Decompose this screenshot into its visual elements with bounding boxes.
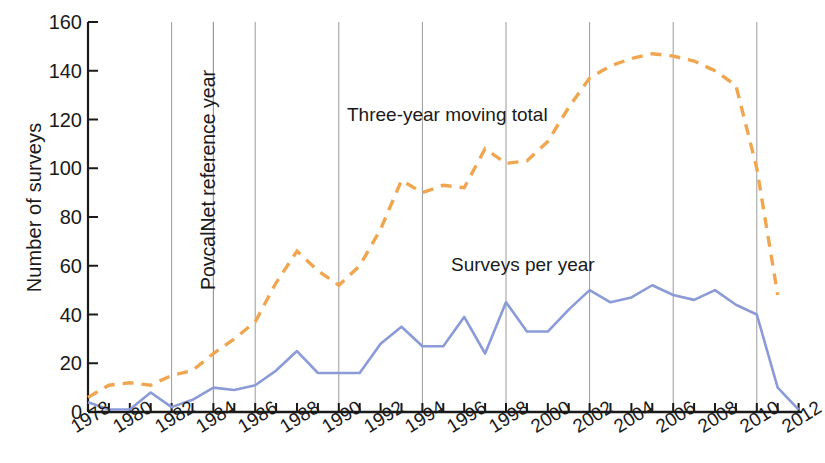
gridlines [172,22,757,412]
series-surveys-per-year [88,285,799,409]
povcalnet-reference-year-label: PovcalNet reference year [197,70,220,290]
surveys-per-year-label: Surveys per year [451,254,595,276]
three-year-moving-total-label: Three-year moving total [347,104,548,126]
y-axis-ticks [88,22,98,412]
